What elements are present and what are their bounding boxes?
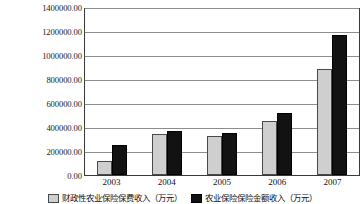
y-tick-label: 0.00 bbox=[2, 172, 82, 180]
y-tick-label: 600000.00 bbox=[2, 100, 82, 108]
legend-swatch-icon bbox=[191, 194, 202, 203]
bar-group bbox=[194, 8, 249, 175]
legend-swatch-icon bbox=[48, 194, 59, 203]
bar[interactable] bbox=[97, 161, 112, 175]
plot-area bbox=[84, 8, 360, 176]
y-tick-label: 400000.00 bbox=[2, 124, 82, 132]
chart-legend: 财政性农业保险保费收入（万元） 农业保险保险金额收入（万元） bbox=[0, 192, 364, 204]
legend-item-series-1: 农业保险保险金额收入（万元） bbox=[191, 194, 317, 203]
legend-label: 农业保险保险金额收入（万元） bbox=[205, 194, 317, 203]
x-tick-label: 2006 bbox=[250, 177, 305, 188]
bar-group bbox=[84, 8, 139, 175]
y-tick-label: 1200000.00 bbox=[2, 28, 82, 36]
x-axis-labels: 20032004200520062007 bbox=[84, 177, 360, 188]
x-tick-label: 2003 bbox=[84, 177, 139, 188]
bar[interactable] bbox=[332, 35, 347, 175]
bar-group bbox=[305, 8, 360, 175]
bar[interactable] bbox=[207, 136, 222, 175]
bar[interactable] bbox=[112, 145, 127, 175]
bar-groups bbox=[84, 8, 360, 175]
y-tick-label: 800000.00 bbox=[2, 76, 82, 84]
x-tick-label: 2007 bbox=[305, 177, 360, 188]
bar-group bbox=[139, 8, 194, 175]
legend-label: 财政性农业保险保费收入（万元） bbox=[62, 194, 182, 203]
bar-chart: 1400000.00 1200000.00 1000000.00 800000.… bbox=[0, 0, 364, 204]
bar[interactable] bbox=[222, 133, 237, 175]
legend-item-series-0: 财政性农业保险保费收入（万元） bbox=[48, 194, 182, 203]
bar[interactable] bbox=[167, 131, 182, 175]
bar[interactable] bbox=[262, 121, 277, 175]
bar[interactable] bbox=[317, 69, 332, 175]
y-tick-label: 1000000.00 bbox=[2, 52, 82, 60]
x-axis-line bbox=[84, 175, 360, 176]
bar[interactable] bbox=[277, 113, 292, 175]
bar-group bbox=[250, 8, 305, 175]
x-tick-label: 2004 bbox=[139, 177, 194, 188]
y-tick-label: 200000.00 bbox=[2, 148, 82, 156]
bar[interactable] bbox=[152, 134, 167, 175]
y-tick-label: 1400000.00 bbox=[2, 4, 82, 12]
x-tick-label: 2005 bbox=[194, 177, 249, 188]
